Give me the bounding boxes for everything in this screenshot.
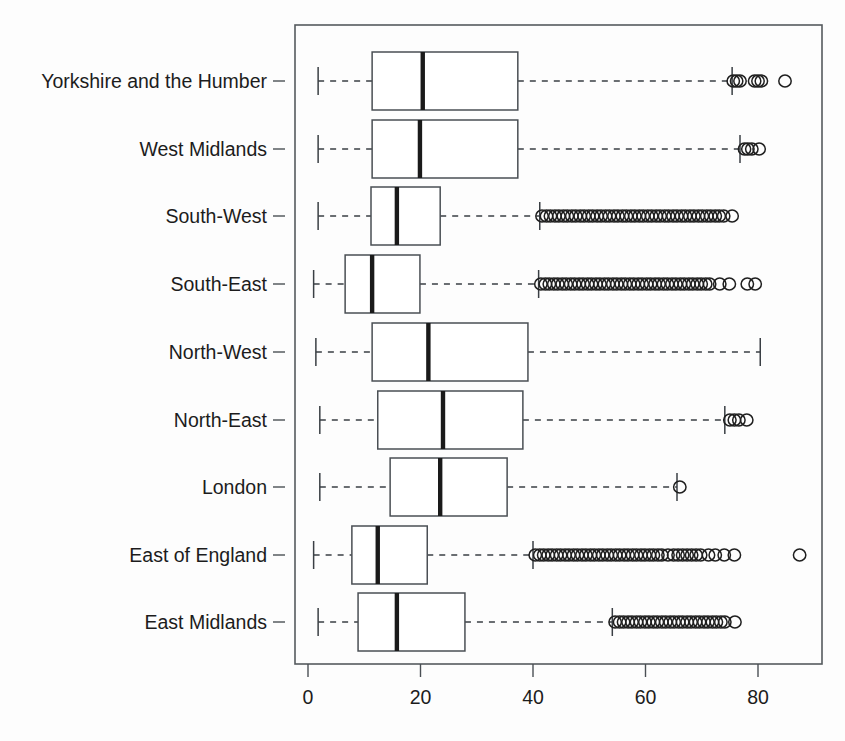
outlier-point: [779, 75, 791, 87]
boxes-group: [314, 52, 806, 651]
box-plot-item: [318, 187, 738, 245]
y-axis-category-label: North-West: [169, 341, 268, 363]
y-axis-category-label: East of England: [129, 544, 267, 566]
box-iqr: [378, 391, 523, 449]
y-axis-category-label: East Midlands: [145, 611, 268, 633]
boxplot-chart: Yorkshire and the HumberWest MidlandsSou…: [0, 0, 845, 741]
box-iqr: [345, 255, 420, 313]
box-iqr: [372, 52, 518, 110]
y-axis-category-label: South-East: [171, 273, 268, 295]
x-axis-tick-label: 0: [303, 686, 314, 708]
box-plot-item: [316, 323, 760, 381]
y-axis-labels: Yorkshire and the HumberWest MidlandsSou…: [41, 70, 267, 633]
box-iqr: [372, 323, 528, 381]
y-axis-category-label: South-West: [165, 205, 267, 227]
x-axis-tick-label: 60: [635, 686, 657, 708]
x-axis-tick-label: 80: [747, 686, 769, 708]
box-plot-item: [314, 526, 806, 584]
box-plot-item: [318, 120, 765, 178]
outlier-point: [749, 278, 761, 290]
x-axis-group: 020406080: [303, 664, 769, 708]
box-iqr: [390, 458, 507, 516]
box-plot-item: [318, 593, 741, 651]
box-iqr: [372, 120, 518, 178]
boxplot-canvas: Yorkshire and the HumberWest MidlandsSou…: [0, 0, 845, 741]
box-iqr: [358, 593, 465, 651]
outlier-point: [723, 278, 735, 290]
box-plot-item: [320, 391, 753, 449]
box-iqr: [371, 187, 440, 245]
outlier-point: [741, 414, 753, 426]
y-axis-category-label: North-East: [174, 409, 268, 431]
outlier-point: [793, 549, 805, 561]
y-axis-category-label: Yorkshire and the Humber: [41, 70, 267, 92]
outlier-point: [726, 210, 738, 222]
y-axis-ticks: [273, 81, 285, 622]
box-plot-item: [314, 255, 762, 313]
x-axis-tick-label: 20: [410, 686, 432, 708]
y-axis-category-label: West Midlands: [139, 138, 267, 160]
x-axis-tick-label: 40: [522, 686, 544, 708]
y-axis-category-label: London: [202, 476, 267, 498]
box-iqr: [352, 526, 427, 584]
box-plot-item: [320, 458, 686, 516]
box-plot-item: [318, 52, 791, 110]
